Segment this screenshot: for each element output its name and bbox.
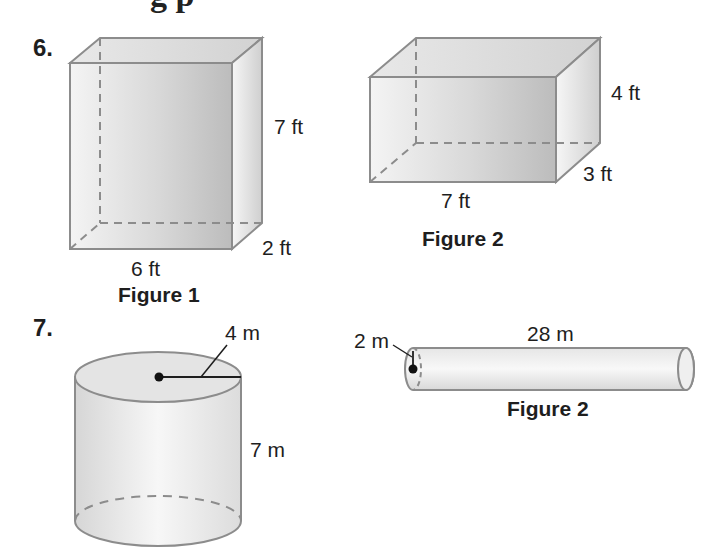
pipe-right-end [678,348,694,390]
figure-1-caption: Figure 1 [118,283,200,306]
cylinder-radius-label: 4 m [225,321,260,344]
figure-1-rectangular-prism: 7 ft 2 ft 6 ft Figure 1 [70,38,303,306]
problem-number-6: 6. [33,34,53,61]
prism-front-face [370,77,556,182]
pipe-length-label: 28 m [527,322,574,345]
worksheet-canvas: g p 6. 7 ft 2 ft 6 ft Figure 1 [0,0,719,557]
prism-side-face [232,38,262,249]
figure-1-height-label: 7 ft [274,115,303,138]
figure-2-depth-label: 3 ft [583,162,612,185]
pipe-body [405,348,694,390]
clipped-heading: g p [150,0,194,13]
prism-front-face [70,63,232,249]
figure-2-caption: Figure 2 [422,227,504,250]
figure-1-depth-label: 2 ft [262,236,291,259]
figure-2-height-label: 4 ft [611,81,640,104]
problem-number-7: 7. [33,314,53,341]
pipe-radius-label: 2 m [354,329,389,352]
pipe-caption: Figure 2 [507,397,589,420]
figure-2-width-label: 7 ft [441,189,470,212]
figure-1-width-label: 6 ft [131,257,160,280]
cylinder-height-label: 7 m [250,438,285,461]
figure-cylinder-horizontal: 2 m 28 m Figure 2 [354,322,694,420]
figure-2-rectangular-prism: 4 ft 3 ft 7 ft Figure 2 [370,38,640,250]
pipe-center-dot [409,365,418,374]
figure-cylinder-vertical: 4 m 7 m [75,321,285,546]
clipped-heading-text: g p [150,0,194,13]
prism-top-face [70,38,262,63]
cylinder-center-dot [155,373,164,382]
